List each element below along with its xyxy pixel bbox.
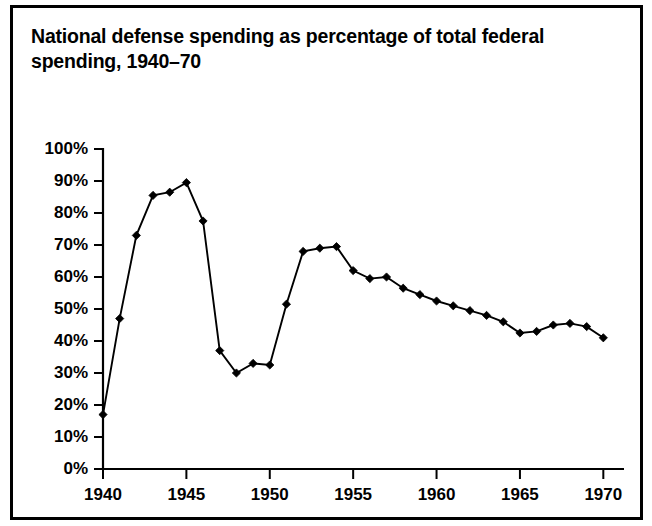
data-point-marker <box>282 300 290 308</box>
y-axis-tick-label: 90% <box>13 171 88 191</box>
data-point-marker <box>182 179 190 187</box>
x-axis-tick-label: 1950 <box>251 485 289 505</box>
y-axis-tick-label: 70% <box>13 235 88 255</box>
data-point-marker <box>199 217 207 225</box>
data-point-marker <box>416 291 424 299</box>
data-point-marker <box>299 247 307 255</box>
chart-figure: National defense spending as percentage … <box>10 5 643 520</box>
data-point-marker <box>266 361 274 369</box>
y-axis-tick-label: 40% <box>13 331 88 351</box>
data-line <box>103 183 603 415</box>
data-point-marker <box>116 315 124 323</box>
x-axis-tick-label: 1940 <box>84 485 122 505</box>
y-axis-tick-label: 20% <box>13 395 88 415</box>
data-point-marker <box>249 359 257 367</box>
data-point-marker <box>166 188 174 196</box>
data-point-marker <box>316 244 324 252</box>
data-point-marker <box>549 321 557 329</box>
data-point-marker <box>149 191 157 199</box>
y-axis-tick-label: 100% <box>13 139 88 159</box>
data-point-marker <box>482 311 490 319</box>
x-axis-tick-label: 1960 <box>418 485 456 505</box>
y-axis-tick-label: 0% <box>13 459 88 479</box>
y-axis-tick-label: 10% <box>13 427 88 447</box>
data-point-marker <box>366 275 374 283</box>
data-point-marker <box>466 307 474 315</box>
y-axis-tick-label: 30% <box>13 363 88 383</box>
chart-plot-area: 0%10%20%30%40%50%60%70%80%90%100%1940194… <box>13 8 646 523</box>
data-point-marker <box>449 302 457 310</box>
data-point-marker <box>432 297 440 305</box>
x-axis-tick-label: 1945 <box>167 485 205 505</box>
line-chart-svg <box>13 8 646 523</box>
y-axis-tick-label: 60% <box>13 267 88 287</box>
y-axis-tick-label: 80% <box>13 203 88 223</box>
data-point-marker <box>132 231 140 239</box>
data-point-marker <box>99 411 107 419</box>
y-axis-tick-label: 50% <box>13 299 88 319</box>
x-axis-tick-label: 1970 <box>584 485 622 505</box>
x-axis-tick-label: 1955 <box>334 485 372 505</box>
data-point-marker <box>533 327 541 335</box>
x-axis-tick-label: 1965 <box>501 485 539 505</box>
data-point-marker <box>566 319 574 327</box>
